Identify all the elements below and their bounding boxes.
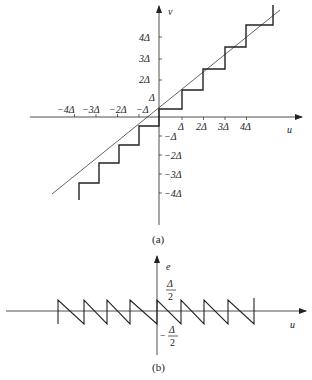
y-tick-pos2: 2Δ [139, 74, 150, 85]
x-tick-neg3: −3Δ [82, 104, 100, 115]
quantizer-figure: v u −4Δ −3Δ −2Δ −Δ Δ 2Δ 3Δ 4Δ Δ 2Δ 3Δ 4Δ… [0, 0, 312, 380]
y-tick-pos4: 4Δ [139, 32, 150, 43]
y-tick-pos3: 3Δ [138, 53, 150, 64]
upper-bound-label: Δ 2 [166, 278, 176, 302]
y-tick-neg2: −2Δ [164, 150, 182, 161]
figure-b: e u Δ 2 − Δ 2 (b) [6, 256, 306, 374]
x-tick-neg2: −2Δ [109, 104, 127, 115]
x-tick-neg1: −Δ [136, 104, 149, 115]
svg-text:2: 2 [170, 337, 175, 348]
x-tick-neg4: −4Δ [57, 104, 75, 115]
x-tick-pos1: Δ [177, 121, 184, 132]
y-tick-neg3: −3Δ [164, 169, 182, 180]
lower-bound-label: − Δ 2 [160, 324, 178, 348]
v-axis-label: v [168, 6, 173, 17]
x-tick-pos4: 4Δ [240, 121, 251, 132]
y-tick-neg1: −Δ [164, 131, 177, 142]
svg-text:Δ: Δ [168, 324, 175, 335]
figure-a: v u −4Δ −3Δ −2Δ −Δ Δ 2Δ 3Δ 4Δ Δ 2Δ 3Δ 4Δ… [30, 5, 302, 246]
caption-b: (b) [152, 361, 165, 374]
caption-a: (a) [152, 233, 165, 246]
u-axis-label-b: u [290, 319, 295, 330]
e-axis-label: e [166, 261, 171, 272]
svg-text:Δ: Δ [166, 278, 173, 289]
y-tick-neg4: −4Δ [164, 188, 182, 199]
svg-text:2: 2 [168, 291, 173, 302]
y-tick-pos1: Δ [148, 92, 155, 103]
x-tick-pos2: 2Δ [196, 121, 207, 132]
x-tick-pos3: 3Δ [217, 121, 229, 132]
svg-text:−: − [160, 330, 166, 341]
u-axis-label-a: u [287, 124, 292, 135]
